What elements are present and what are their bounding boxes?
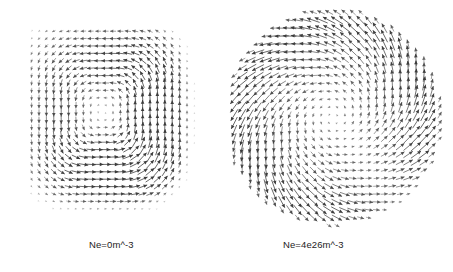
quiver-plot-high-electron-density	[228, 8, 446, 230]
caption-left: Ne=0m^-3	[89, 239, 134, 250]
quiver-panel-left	[18, 14, 208, 226]
vector-field-figure: Ne=0m^-3 Ne=4e26m^-3	[0, 0, 453, 272]
quiver-panel-right	[228, 8, 446, 230]
caption-right: Ne=4e26m^-3	[283, 239, 344, 250]
quiver-plot-no-electron-density	[18, 14, 208, 226]
